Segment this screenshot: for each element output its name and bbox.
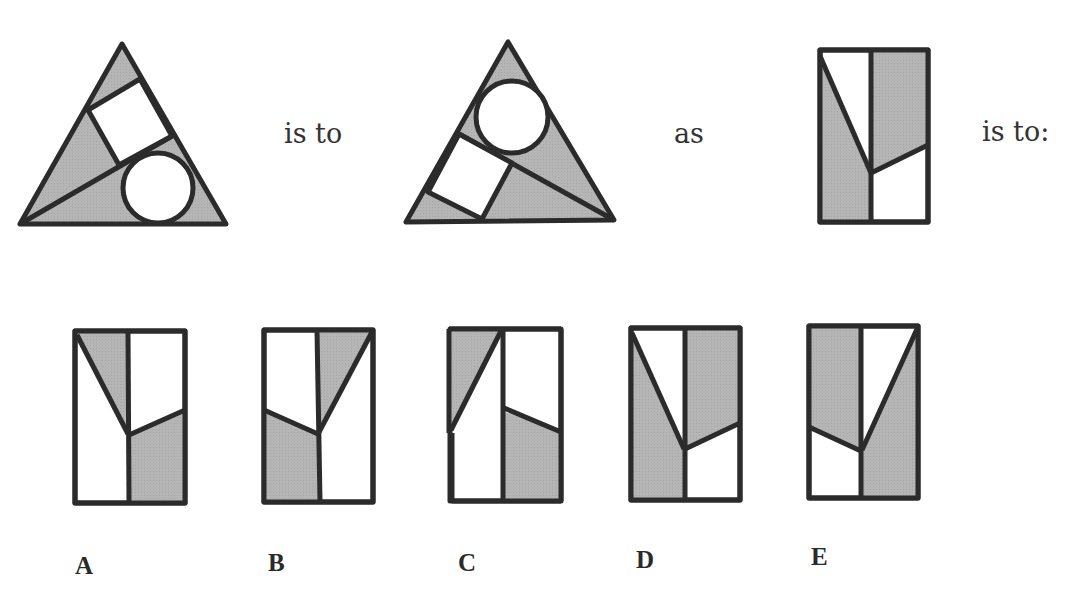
option-d-label[interactable]: D [636,546,654,574]
connector-is-to: is to [284,118,342,149]
option-e-label[interactable]: E [811,543,828,571]
option-a-label[interactable]: A [75,552,93,580]
option-c-figure[interactable] [449,329,561,501]
figure-query-rectangle [820,50,928,222]
connector-as: as [674,118,704,149]
figure-triangle-1 [20,44,226,224]
option-d-figure[interactable] [631,328,740,500]
connector-is-to-final: is to: [982,116,1049,147]
circle-shape [476,81,548,153]
option-e-figure[interactable] [809,326,918,498]
option-a-figure[interactable] [75,331,185,503]
option-b-figure[interactable] [264,330,373,502]
circle-shape [123,153,193,223]
option-c-label[interactable]: C [458,549,476,577]
figure-triangle-2 [406,42,614,222]
puzzle-canvas [0,0,1090,616]
option-b-label[interactable]: B [268,549,285,577]
